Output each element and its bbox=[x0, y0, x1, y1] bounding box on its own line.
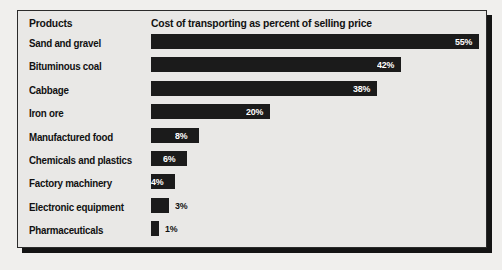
row-category-label: Electronic equipment bbox=[29, 201, 124, 213]
bar bbox=[151, 81, 377, 96]
chart-row: Bituminous coal42% bbox=[18, 56, 486, 79]
bar-value-label: 42% bbox=[377, 59, 394, 70]
bar-value-label: 4% bbox=[151, 176, 163, 187]
bar-track: 42% bbox=[151, 57, 482, 72]
bar-value-label: 6% bbox=[163, 153, 175, 164]
bar-track: 1% bbox=[151, 221, 482, 236]
chart-rows: Sand and gravel55%Bituminous coal42%Cabb… bbox=[18, 33, 486, 244]
bar-track: 6% bbox=[151, 151, 482, 166]
chart-row: Sand and gravel55% bbox=[18, 33, 486, 56]
bar-track: 55% bbox=[151, 34, 482, 49]
column-header-products: Products bbox=[29, 17, 72, 29]
bar-value-label: 8% bbox=[175, 130, 187, 141]
chart-row: Cabbage38% bbox=[18, 80, 486, 103]
bar-value-label: 20% bbox=[246, 106, 263, 117]
bar-value-label: 1% bbox=[165, 223, 177, 234]
row-category-label: Iron ore bbox=[29, 107, 63, 119]
bar-track: 4% bbox=[151, 174, 482, 189]
row-category-label: Pharmaceuticals bbox=[29, 224, 103, 236]
bar-track: 8% bbox=[151, 128, 482, 143]
row-category-label: Chemicals and plastics bbox=[29, 154, 132, 166]
bar-track: 38% bbox=[151, 81, 482, 96]
row-category-label: Manufactured food bbox=[29, 131, 113, 143]
bar-value-label: 55% bbox=[455, 36, 472, 47]
chart-row: Manufactured food8% bbox=[18, 127, 486, 150]
bar-track: 20% bbox=[151, 104, 482, 119]
chart-row: Electronic equipment3% bbox=[18, 197, 486, 220]
chart-row: Chemicals and plastics6% bbox=[18, 150, 486, 173]
chart-panel: Products Cost of transporting as percent… bbox=[17, 10, 487, 248]
column-header-metric: Cost of transporting as percent of selli… bbox=[151, 17, 372, 29]
row-category-label: Factory machinery bbox=[29, 177, 112, 189]
bar bbox=[151, 198, 169, 213]
bar bbox=[151, 34, 479, 49]
chart-row: Factory machinery4% bbox=[18, 173, 486, 196]
chart-row: Pharmaceuticals1% bbox=[18, 220, 486, 243]
bar-value-label: 38% bbox=[353, 83, 370, 94]
bar bbox=[151, 221, 159, 236]
bar bbox=[151, 57, 401, 72]
row-category-label: Sand and gravel bbox=[29, 37, 101, 49]
chart-row: Iron ore20% bbox=[18, 103, 486, 126]
bar-track: 3% bbox=[151, 198, 482, 213]
column-header-row: Products Cost of transporting as percent… bbox=[18, 11, 486, 33]
row-category-label: Cabbage bbox=[29, 84, 69, 96]
bar-value-label: 3% bbox=[175, 200, 187, 211]
row-category-label: Bituminous coal bbox=[29, 60, 101, 72]
